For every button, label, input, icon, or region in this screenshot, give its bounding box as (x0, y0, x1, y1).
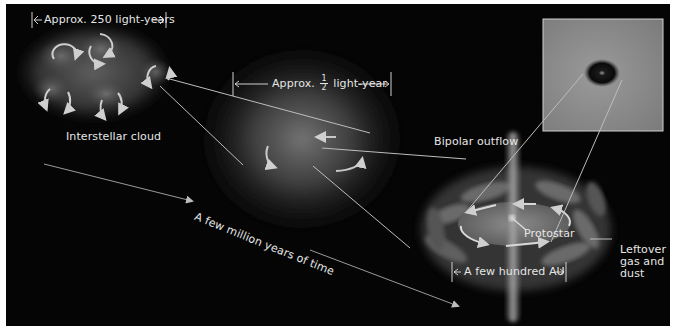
diagram-canvas (6, 4, 670, 326)
interstellar-cloud (16, 22, 172, 122)
core-scale-suffix: light-year (333, 77, 387, 90)
leftover-gas-label: Leftover gas and dust (620, 244, 666, 280)
star-formation-diagram: Approx. 250 light-years Interstellar clo… (6, 4, 670, 326)
core-scale-prefix: Approx. (272, 77, 315, 90)
protostar-label: Protostar (524, 228, 575, 240)
bipolar-outflow-label: Bipolar outflow (434, 136, 518, 148)
interstellar-cloud-label: Interstellar cloud (66, 131, 161, 143)
collapsing-core-glow (192, 39, 412, 239)
inset-photo (543, 19, 663, 131)
core-scale-fraction: 1 2 (320, 75, 327, 92)
protostar-system (421, 132, 611, 322)
bipolar-jet (506, 132, 520, 322)
cloud-scale-label: Approx. 250 light-years (44, 14, 175, 26)
leftover-line-3: dust (620, 268, 666, 280)
fraction-denominator: 2 (320, 84, 327, 92)
dark-core (584, 59, 620, 87)
core-scale-label: Approx. 1 2 light-year (272, 75, 387, 92)
disk-scale-label: A few hundred AU (464, 266, 565, 278)
